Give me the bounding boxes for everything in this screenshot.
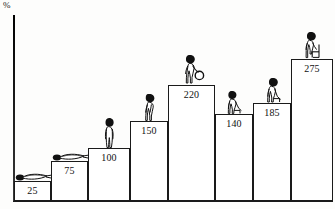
person-sitting-icon <box>259 76 285 104</box>
bar-5: 220 <box>168 85 215 201</box>
person-sitting-chair-icon <box>297 30 327 60</box>
bar-2: 75 <box>51 161 88 201</box>
bar-4: 150 <box>130 121 168 201</box>
bar-7: 185 <box>253 103 291 201</box>
person-standing-icon <box>99 117 119 149</box>
bar-value-label: 275 <box>292 63 332 74</box>
y-axis-line <box>13 15 14 202</box>
x-axis-baseline <box>13 201 333 202</box>
bar-8: 275 <box>291 59 333 201</box>
bar-6: 140 <box>215 114 253 201</box>
person-lying-icon <box>13 170 53 182</box>
bar-value-label: 150 <box>131 125 167 136</box>
bar-1: 25 <box>14 181 51 201</box>
person-lifting-weight-icon <box>177 53 207 86</box>
bar-value-label: 185 <box>254 107 290 118</box>
bar-value-label: 220 <box>169 89 214 100</box>
bar-value-label: 75 <box>52 165 87 176</box>
person-bending-icon <box>137 92 161 122</box>
bar-chart: % 25 75 100 <box>0 0 335 209</box>
person-lying-icon <box>50 150 90 162</box>
y-axis-unit-label: % <box>3 1 11 10</box>
bar-3: 100 <box>88 148 130 201</box>
bar-value-label: 25 <box>15 185 50 196</box>
person-sitting-icon <box>223 89 245 115</box>
bar-value-label: 100 <box>89 152 129 163</box>
bar-value-label: 140 <box>216 118 252 129</box>
